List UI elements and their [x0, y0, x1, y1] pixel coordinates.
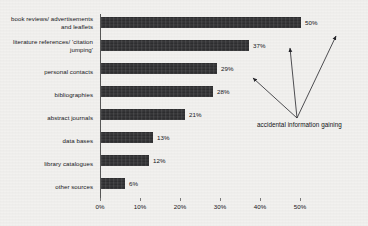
category-label-line-1: literature references/ 'citation: [0, 38, 93, 46]
bar-literature-references: [101, 40, 249, 51]
x-tick-label-0: 0%: [96, 203, 105, 211]
category-label-literature-references: literature references/ 'citation jumping…: [0, 38, 93, 53]
bar-book-reviews: [101, 17, 301, 28]
category-label-line-2: jumping': [0, 46, 93, 54]
bar-value-library-catalogues: 12%: [153, 157, 165, 164]
category-axis-labels: book reviews/ advertisements and leaflet…: [0, 0, 96, 226]
x-tick-50: [300, 198, 301, 201]
category-label-abstract-journals: abstract journals: [0, 114, 93, 122]
bar-other-sources: [101, 178, 125, 189]
bar-value-abstract-journals: 21%: [189, 111, 201, 118]
category-label-bibliographies: bibliographies: [0, 91, 93, 99]
bar-bibliographies: [101, 86, 213, 97]
bar-value-book-reviews: 50%: [305, 19, 317, 26]
bar-chart: book reviews/ advertisements and leaflet…: [0, 0, 368, 226]
annotation-label: accidental information gaining: [257, 121, 342, 129]
plot-area: 50% 37% 29% 28% 21% 13% 12% 6%: [100, 14, 352, 198]
bar-value-data-bases: 13%: [157, 134, 169, 141]
x-tick-label-10: 10%: [134, 203, 146, 211]
category-label-data-bases: data bases: [0, 137, 93, 145]
x-tick-label-20: 20%: [174, 203, 186, 211]
x-tick-40: [260, 198, 261, 201]
x-tick-20: [180, 198, 181, 201]
category-label-book-reviews: book reviews/ advertisements and leaflet…: [0, 15, 93, 30]
bar-abstract-journals: [101, 109, 185, 120]
x-tick-10: [140, 198, 141, 201]
x-tick-30: [220, 198, 221, 201]
x-axis: 0% 10% 20% 30% 40% 50%: [100, 198, 352, 224]
bar-value-personal-contacts: 29%: [221, 65, 233, 72]
bar-library-catalogues: [101, 155, 149, 166]
bar-value-bibliographies: 28%: [217, 88, 229, 95]
bar-personal-contacts: [101, 63, 217, 74]
bar-value-other-sources: 6%: [129, 180, 138, 187]
category-label-library-catalogues: library catalogues: [0, 160, 93, 168]
x-tick-label-50: 50%: [294, 203, 306, 211]
x-tick-label-30: 30%: [214, 203, 226, 211]
category-label-line-2: and leaflets: [0, 23, 93, 31]
category-label-other-sources: other sources: [0, 183, 93, 191]
x-tick-label-40: 40%: [254, 203, 266, 211]
category-label-personal-contacts: personal contacts: [0, 68, 93, 76]
category-label-line-1: book reviews/ advertisements: [0, 15, 93, 23]
bar-data-bases: [101, 132, 153, 143]
bar-value-literature-references: 37%: [253, 42, 265, 49]
x-tick-0: [100, 198, 101, 201]
